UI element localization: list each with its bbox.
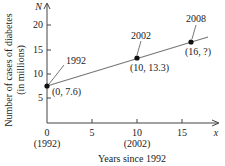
leader-line <box>137 41 141 55</box>
x-tick-label: 0 <box>45 127 50 138</box>
data-point-2008 <box>188 39 193 44</box>
year-annotation: 2008 <box>186 13 206 24</box>
y-tick-label: 10 <box>33 68 43 79</box>
point-label: (16, ?) <box>185 46 211 58</box>
x-axis-symbol: x <box>213 127 219 138</box>
y-tick-label: 20 <box>33 19 43 30</box>
x-tick-sublabel: (2002) <box>124 138 151 150</box>
x-ticks: 0 5 10 15 (1992) (2002) <box>34 119 187 150</box>
y-axis-symbol: N <box>34 1 43 12</box>
year-annotation: 1992 <box>66 55 86 66</box>
x-tick-label: 15 <box>177 127 187 138</box>
x-tick-label: 10 <box>132 127 142 138</box>
x-tick-sublabel: (1992) <box>34 138 61 150</box>
year-annotation: 2002 <box>131 30 151 41</box>
y-axis-label-line1: Number of cases of diabetes <box>3 13 14 126</box>
y-ticks: 5 10 15 20 <box>33 19 51 103</box>
x-tick-label: 5 <box>90 127 95 138</box>
y-tick-label: 15 <box>33 44 43 55</box>
y-tick-label: 5 <box>38 92 43 103</box>
x-axis-label: Years since 1992 <box>98 153 166 164</box>
point-label: (10, 13.3) <box>130 62 169 74</box>
chart: Number of cases of diabetes (in millions… <box>0 0 225 166</box>
data-point-1992 <box>44 83 49 88</box>
data-point-2002 <box>134 55 139 60</box>
y-axis-label-line2: (in millions) <box>15 45 27 95</box>
leader-line <box>192 25 196 39</box>
point-label: (0, 7.6) <box>52 86 81 98</box>
y-axis-label: Number of cases of diabetes (in millions… <box>3 13 27 126</box>
